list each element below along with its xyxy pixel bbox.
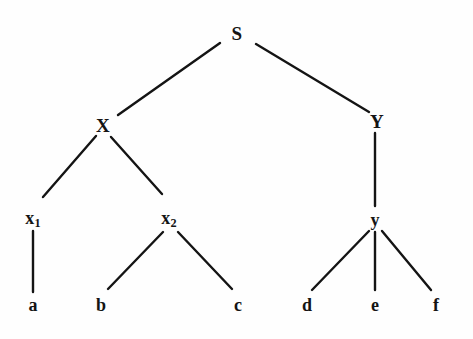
tree-node-d-base: d [302, 295, 312, 315]
tree-node-Y: Y [370, 112, 384, 131]
tree-edge-S-Y [256, 44, 369, 112]
tree-node-x2-base: x [161, 208, 170, 228]
tree-node-x2: x2 [161, 209, 176, 230]
tree-node-Y-base: Y [370, 111, 384, 132]
tree-node-x1-base: x [25, 208, 34, 228]
tree-edge-x2-b [108, 232, 163, 289]
tree-edge-x2-c [178, 232, 232, 289]
tree-node-x2-subscript: 2 [171, 216, 177, 230]
tree-node-b-base: b [96, 295, 106, 315]
tree-node-y: y [370, 211, 379, 229]
tree-node-c-base: c [234, 295, 242, 315]
tree-node-x1-subscript: 1 [35, 216, 41, 230]
tree-node-a-base: a [28, 295, 37, 315]
tree-node-e-base: e [371, 295, 379, 315]
tree-edge-y-d [312, 231, 369, 290]
tree-node-e: e [371, 296, 379, 314]
tree-edges-canvas [0, 0, 473, 339]
tree-node-f-base: f [433, 295, 439, 315]
tree-node-b: b [96, 296, 106, 314]
tree-node-X-base: X [96, 115, 110, 136]
tree-node-X: X [96, 116, 110, 135]
tree-edge-y-f [382, 231, 431, 290]
tree-node-S-base: S [232, 23, 243, 44]
tree-edge-S-X [118, 43, 220, 115]
tree-node-y-base: y [370, 210, 379, 230]
tree-node-c: c [234, 296, 242, 314]
tree-node-d: d [302, 296, 312, 314]
tree-edge-X-x2 [111, 137, 162, 194]
tree-node-f: f [433, 296, 439, 314]
tree-node-x1: x1 [25, 209, 40, 230]
tree-node-a: a [28, 296, 37, 314]
tree-node-S: S [232, 24, 243, 43]
tree-edge-X-x1 [43, 136, 96, 197]
edge-group [33, 43, 431, 292]
tree-diagram-figure: SXYx1x2yabcdef [0, 0, 473, 339]
